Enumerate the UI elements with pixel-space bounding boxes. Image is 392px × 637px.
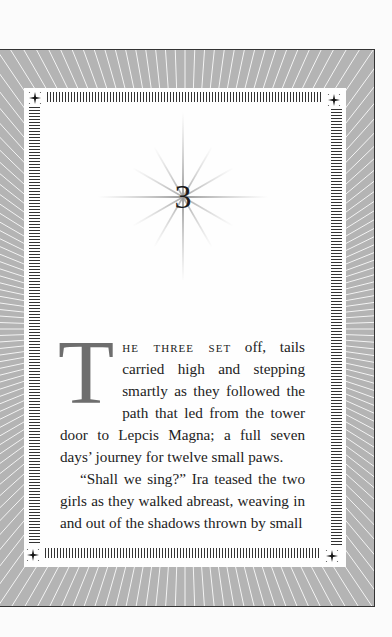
- body-text: The three set off, tails carried high an…: [60, 336, 305, 534]
- left-tick-border: [29, 107, 40, 543]
- drop-cap: T: [58, 336, 114, 406]
- paragraph-2: “Shall we sing?” Ira teased the two girl…: [60, 468, 305, 534]
- bottom-tick-border: [45, 548, 321, 558]
- corner-star-icon: [325, 549, 339, 563]
- chapter-number: 3: [168, 178, 198, 216]
- corner-star-icon: [327, 93, 341, 107]
- corner-star-icon: [28, 91, 42, 105]
- paragraph-1: The three set off, tails carried high an…: [60, 336, 305, 468]
- corner-star-icon: [26, 548, 40, 562]
- top-tick-border: [47, 92, 323, 102]
- right-tick-border: [331, 109, 342, 545]
- lead-in: he three set: [122, 338, 231, 355]
